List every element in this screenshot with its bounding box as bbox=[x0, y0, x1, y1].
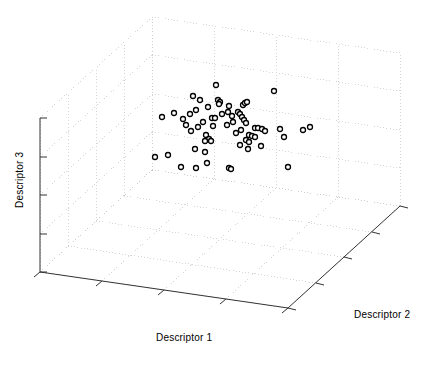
data-point bbox=[209, 139, 214, 144]
data-point bbox=[247, 140, 252, 145]
data-point bbox=[166, 153, 171, 158]
axis-lines bbox=[40, 118, 400, 308]
data-point bbox=[196, 125, 201, 130]
data-point bbox=[214, 83, 219, 88]
data-point bbox=[239, 128, 244, 133]
data-point bbox=[246, 147, 251, 152]
grid-lines bbox=[40, 17, 400, 308]
data-point bbox=[213, 116, 218, 121]
data-point bbox=[181, 117, 186, 122]
data-point bbox=[245, 100, 250, 105]
data-point bbox=[259, 144, 264, 149]
data-point bbox=[172, 111, 177, 116]
data-point bbox=[153, 155, 158, 160]
data-point bbox=[286, 165, 291, 170]
data-point bbox=[211, 124, 216, 129]
data-point bbox=[225, 123, 230, 128]
data-point bbox=[227, 104, 232, 109]
data-point bbox=[226, 110, 231, 115]
data-point bbox=[253, 135, 258, 140]
x-axis-label: Descriptor 1 bbox=[156, 332, 212, 343]
data-point bbox=[244, 121, 249, 126]
data-point bbox=[206, 105, 211, 110]
data-point bbox=[203, 139, 208, 144]
data-point bbox=[201, 120, 206, 125]
data-point bbox=[205, 161, 210, 166]
data-point-group bbox=[153, 83, 313, 172]
data-point bbox=[198, 98, 203, 103]
data-point bbox=[191, 94, 196, 99]
data-point bbox=[217, 102, 222, 107]
data-point bbox=[160, 115, 165, 120]
data-point bbox=[238, 143, 243, 148]
data-point bbox=[194, 166, 199, 171]
data-point bbox=[301, 128, 306, 133]
data-point bbox=[229, 167, 234, 172]
data-point bbox=[282, 135, 287, 140]
data-point bbox=[308, 125, 313, 130]
data-point bbox=[231, 120, 236, 125]
data-point bbox=[263, 129, 268, 134]
data-point bbox=[188, 112, 193, 117]
y-axis-label: Descriptor 2 bbox=[354, 309, 410, 320]
x-axis-ticks bbox=[34, 272, 288, 313]
data-point bbox=[193, 147, 198, 152]
data-point bbox=[230, 114, 235, 119]
data-point bbox=[203, 150, 208, 155]
data-point bbox=[184, 123, 189, 128]
data-point bbox=[189, 129, 194, 134]
z-axis-ticks bbox=[40, 118, 47, 272]
data-point bbox=[278, 127, 283, 132]
y-axis-ticks bbox=[288, 206, 408, 310]
data-point bbox=[220, 112, 225, 117]
data-point bbox=[272, 89, 277, 94]
figure-canvas: Descriptor 1 Descriptor 2 Descriptor 3 bbox=[0, 0, 433, 365]
z-axis-label: Descriptor 3 bbox=[14, 152, 25, 208]
data-point bbox=[194, 108, 199, 113]
data-point bbox=[234, 131, 239, 136]
data-point bbox=[179, 165, 184, 170]
